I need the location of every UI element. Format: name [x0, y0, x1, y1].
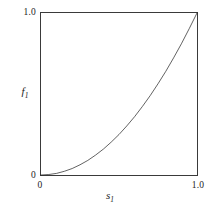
x-axis-title-subscript: 1 — [110, 195, 114, 204]
plot-frame — [40, 12, 198, 176]
y-axis-tick-label-min: 0 — [22, 171, 36, 181]
plot-canvas — [41, 13, 197, 175]
data-curve-f1 — [41, 13, 197, 175]
y-axis-title-subscript: 1 — [25, 91, 29, 100]
y-axis-title: f1 — [14, 86, 36, 100]
chart-figure: f1 s1 1.0 0 0 1.0 — [0, 0, 218, 214]
x-axis-tick-label-min: 0 — [34, 181, 46, 191]
x-axis-tick-label-max: 1.0 — [186, 181, 210, 191]
y-axis-tick-label-max: 1.0 — [10, 8, 36, 18]
x-axis-title: s1 — [98, 190, 122, 204]
